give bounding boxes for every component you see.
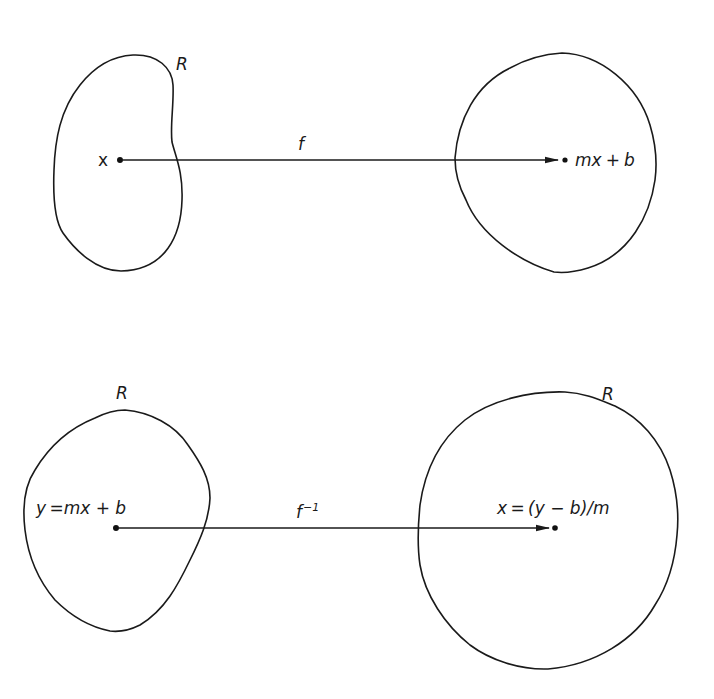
f-inverse-label: f−1 [296, 501, 319, 522]
bottom-domain-region-label: R [116, 383, 128, 403]
top-domain-point-label: x [98, 150, 108, 170]
top-domain-region [54, 55, 182, 271]
bottom-codomain-region [418, 392, 678, 669]
top-domain-region-label: R [176, 54, 188, 74]
top-domain-point [117, 157, 123, 163]
bottom-image-point-label: x = (y − b)/m [496, 498, 610, 518]
bottom-mapping: R y =mx + b f−1 R x = (y − b)/m [24, 383, 678, 669]
top-image-point [562, 157, 567, 162]
f-label: f [298, 134, 307, 154]
bottom-domain-point [113, 525, 119, 531]
mapping-diagram: R x f mx+b R y =mx + b f−1 R x = (y − b)… [0, 0, 714, 699]
top-mapping: R x f mx+b [54, 53, 656, 272]
bottom-domain-point-label: y =mx + b [35, 498, 126, 518]
bottom-codomain-region-label: R [602, 384, 614, 404]
bottom-domain-region [24, 410, 210, 631]
top-image-point-label: mx+b [575, 150, 635, 170]
bottom-image-point [552, 525, 558, 531]
